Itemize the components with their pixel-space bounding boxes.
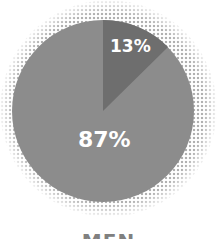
pie-chart (0, 0, 217, 217)
slice-label-87: 87% (78, 127, 131, 152)
chart-title: MEN (0, 229, 217, 239)
slice-label-13: 13% (110, 36, 151, 56)
